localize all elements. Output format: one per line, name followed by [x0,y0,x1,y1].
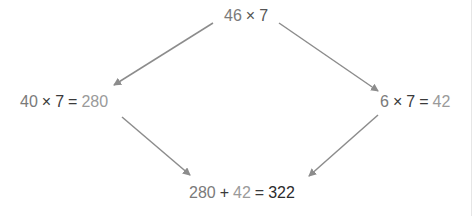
right-expression: 6×7=42 [380,93,450,111]
bottom-operator: + [220,184,229,201]
left-operand-b: 7 [55,93,64,110]
right-operand-b: 7 [406,93,415,110]
top-expression: 46×7 [224,7,268,25]
arrow-top-to-left [114,23,213,85]
arrow-right-to-bottom [309,115,378,176]
diagram-frame: 46×7 40×7=280 6×7=42 280+42=322 [0,0,472,216]
right-result: 42 [433,93,451,110]
bottom-expression: 280+42=322 [189,184,295,202]
top-operand-b: 7 [259,7,268,24]
left-equals: = [68,93,77,110]
left-result: 280 [81,93,108,110]
arrow-left-to-bottom [122,117,190,175]
left-operand-a: 40 [20,93,38,110]
top-operand-a: 46 [224,7,242,24]
bottom-equals: = [255,184,264,201]
bottom-operand-a: 280 [189,184,216,201]
bottom-result: 322 [268,184,295,201]
left-expression: 40×7=280 [20,93,108,111]
left-operator: × [42,93,51,110]
arrow-top-to-right [279,23,378,91]
right-operator: × [393,93,402,110]
right-equals: = [419,93,428,110]
bottom-operand-b: 42 [233,184,251,201]
top-operator: × [246,7,255,24]
right-operand-a: 6 [380,93,389,110]
